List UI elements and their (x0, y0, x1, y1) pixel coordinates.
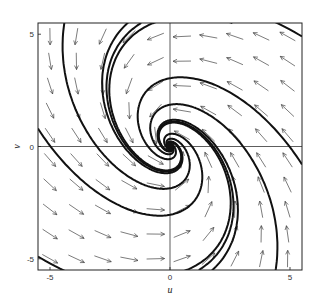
y-tick-label: 5 (30, 30, 35, 39)
direction-arrow-icon (174, 230, 191, 237)
direction-arrow-icon (96, 179, 110, 189)
direction-arrow-icon (283, 153, 292, 167)
direction-arrow-icon (286, 250, 290, 267)
trajectory-curve (38, 120, 238, 292)
direction-arrow-icon (147, 208, 165, 212)
direction-arrow-icon (44, 179, 57, 191)
direction-arrow-icon (43, 204, 57, 215)
direction-arrow-icon (227, 82, 242, 91)
direction-arrow-icon (253, 57, 268, 66)
direction-arrow-icon (255, 129, 266, 142)
direction-arrow-icon (95, 230, 111, 237)
direction-arrow-icon (147, 232, 165, 236)
x-axis-label: u (168, 284, 173, 295)
direction-arrow-icon (69, 230, 84, 239)
direction-arrow-icon (253, 33, 269, 41)
direction-arrow-icon (74, 28, 78, 45)
direction-arrow-icon (175, 179, 189, 190)
direction-arrow-icon (120, 257, 138, 262)
direction-arrow-icon (44, 153, 55, 166)
direction-arrow-icon (147, 257, 165, 261)
direction-arrow-icon (284, 177, 291, 192)
direction-arrow-icon (228, 105, 242, 116)
direction-arrow-icon (46, 103, 54, 118)
direction-arrow-icon (97, 154, 109, 167)
direction-arrow-icon (207, 176, 211, 193)
direction-arrow-icon (173, 35, 191, 39)
direction-arrow-icon (75, 78, 80, 95)
direction-arrow-icon (95, 205, 110, 214)
direction-arrow-icon (75, 53, 79, 70)
direction-arrow-icon (127, 102, 131, 119)
direction-arrow-icon (258, 201, 262, 218)
direction-arrow-icon (260, 251, 264, 268)
direction-arrow-icon (203, 227, 214, 240)
direction-arrow-icon (174, 255, 191, 261)
direction-arrow-icon (205, 152, 212, 168)
direction-arrow-icon (147, 33, 164, 40)
direction-arrow-icon (47, 78, 53, 94)
direction-arrow-icon (43, 229, 58, 239)
trajectory-curve (150, 104, 277, 270)
y-tick-label: -5 (27, 255, 35, 264)
direction-arrow-icon (200, 34, 218, 38)
direction-arrow-icon (42, 254, 57, 263)
direction-arrow-icon (69, 204, 84, 214)
direction-arrow-icon (68, 255, 84, 263)
direction-arrow-icon (200, 58, 217, 63)
direction-arrow-icon (226, 33, 243, 39)
direction-arrow-icon (125, 128, 133, 143)
trajectory-curve (102, 1, 302, 173)
direction-arrow-icon (257, 153, 266, 168)
direction-arrow-icon (284, 201, 290, 217)
phase-portrait-figure: -505-505 u v (0, 0, 320, 305)
direction-arrow-icon (121, 180, 136, 189)
x-tick-label: 0 (168, 273, 173, 282)
direction-arrow-icon (94, 256, 111, 262)
direction-arrow-icon (173, 108, 191, 112)
direction-arrow-icon (285, 226, 289, 243)
y-axis-label: v (11, 144, 22, 149)
direction-arrow-icon (205, 202, 212, 217)
direction-arrow-icon (280, 32, 295, 41)
direction-arrow-icon (98, 128, 107, 143)
direction-arrow-icon (281, 80, 295, 91)
direction-arrow-icon (281, 105, 294, 117)
direction-arrow-icon (71, 154, 83, 167)
direction-arrow-icon (231, 153, 240, 168)
direction-arrow-icon (124, 54, 134, 68)
direction-arrow-icon (173, 84, 191, 88)
direction-arrow-icon (150, 104, 162, 117)
direction-arrow-icon (227, 57, 243, 64)
direction-arrow-icon (49, 53, 53, 70)
direction-arrow-icon (231, 251, 239, 266)
direction-arrow-icon (48, 28, 52, 45)
direction-arrow-icon (259, 226, 263, 243)
equilibrium-point (166, 143, 174, 151)
y-tick-label: 0 (30, 143, 35, 152)
direction-arrow-icon (173, 59, 191, 63)
x-tick-label: -5 (46, 273, 54, 282)
direction-arrow-icon (72, 128, 81, 142)
direction-arrow-icon (99, 29, 106, 44)
direction-arrow-icon (280, 56, 295, 66)
x-tick-label: 5 (288, 273, 293, 282)
direction-arrow-icon (254, 81, 269, 91)
direction-arrow-icon (126, 78, 132, 94)
direction-arrow-icon (148, 57, 164, 65)
direction-arrow-icon (121, 232, 138, 237)
